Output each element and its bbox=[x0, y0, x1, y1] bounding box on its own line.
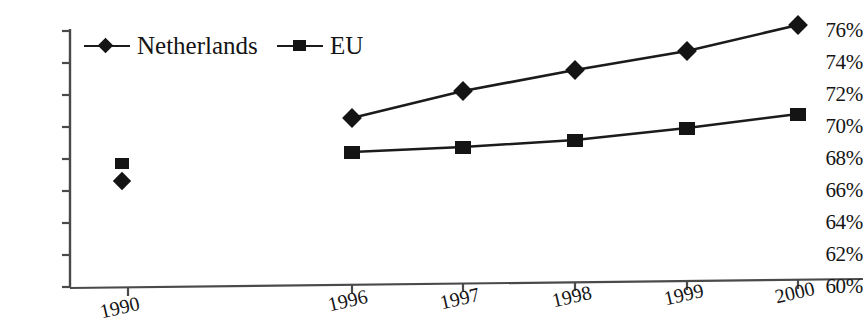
line-chart: 76% 74% 72% 70% 68% 66% 64% 62% 60% 1990… bbox=[0, 0, 863, 324]
legend-marker-diamond-icon bbox=[84, 39, 130, 53]
data-point-netherlands-1996 bbox=[342, 108, 362, 128]
y-tick-label-64: 64% bbox=[797, 212, 863, 233]
data-point-eu-1990 bbox=[115, 158, 129, 169]
y-tick-label-62: 62% bbox=[797, 244, 863, 265]
legend-item-eu: EU bbox=[277, 33, 363, 58]
legend-marker-square-icon bbox=[277, 39, 323, 53]
series-markers-eu bbox=[115, 108, 806, 169]
legend-item-netherlands: Netherlands bbox=[84, 33, 258, 58]
data-point-eu-1999 bbox=[679, 122, 695, 135]
data-point-netherlands-1997 bbox=[453, 81, 473, 101]
y-tick-label-66: 66% bbox=[797, 180, 863, 201]
data-point-eu-1997 bbox=[455, 141, 471, 154]
data-point-eu-1998 bbox=[567, 134, 583, 147]
y-tick-label-68: 68% bbox=[797, 148, 863, 169]
data-point-netherlands-1998 bbox=[565, 60, 585, 80]
y-tick-label-70: 70% bbox=[797, 116, 863, 137]
data-point-eu-1996 bbox=[344, 146, 360, 159]
data-point-netherlands-1999 bbox=[677, 41, 697, 61]
legend-label-eu: EU bbox=[330, 33, 363, 58]
data-point-netherlands-1990 bbox=[113, 172, 131, 190]
y-tick-label-76: 76% bbox=[797, 20, 863, 41]
legend-label-netherlands: Netherlands bbox=[137, 33, 258, 58]
y-tick-label-74: 74% bbox=[797, 52, 863, 73]
y-tick-label-72: 72% bbox=[797, 84, 863, 105]
